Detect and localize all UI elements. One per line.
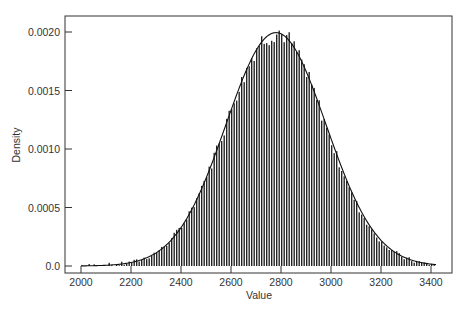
histogram-bar [334, 153, 335, 266]
histogram-bar [266, 43, 267, 266]
histogram-bar [434, 265, 435, 266]
histogram-bar [184, 223, 185, 266]
histogram-bar [244, 82, 245, 266]
histogram-bar [234, 103, 235, 266]
histogram-bar [256, 48, 257, 266]
histogram-bar [204, 181, 205, 266]
histogram-bar [236, 101, 237, 266]
histogram-bar [224, 135, 225, 266]
histogram-bar [314, 88, 315, 266]
histogram-bar [229, 111, 230, 266]
histogram-bar [149, 258, 150, 266]
histogram-bar [321, 121, 322, 266]
histogram-bar [364, 218, 365, 266]
histogram-bar [216, 146, 217, 266]
x-tick-label: 3000 [319, 276, 343, 288]
histogram-bar [261, 36, 262, 266]
histogram-bar [219, 144, 220, 266]
histogram-bar [241, 77, 242, 266]
histogram-bar [354, 200, 355, 266]
histogram-bar [211, 169, 212, 266]
histogram-bar [341, 171, 342, 266]
histogram-bar [379, 241, 380, 266]
histogram-bar [181, 228, 182, 266]
histogram-bar [429, 265, 430, 266]
histogram-bar [156, 252, 157, 266]
histogram-bar [141, 260, 142, 266]
histogram-bar [139, 262, 140, 266]
histogram-bar [376, 238, 377, 266]
histogram-bar [191, 208, 192, 266]
histogram-bar [411, 261, 412, 266]
histogram-bar [351, 192, 352, 266]
x-axis-label: Value [246, 289, 272, 301]
histogram-bar [286, 35, 287, 266]
histogram-bar [279, 31, 280, 266]
histogram-bar [251, 58, 252, 266]
histogram-bar [171, 238, 172, 266]
histogram-bar [331, 145, 332, 266]
x-tick-label: 2200 [119, 276, 143, 288]
histogram-bar [231, 109, 232, 266]
histogram-bar [199, 193, 200, 266]
y-tick-label: 0.0020 [28, 26, 60, 38]
histogram-bar [311, 85, 312, 266]
histogram-bar [146, 259, 147, 266]
histogram-bar [386, 247, 387, 266]
histogram-chart: 20002200240026002800300032003400 0.00.00… [0, 0, 463, 313]
histogram-bar [169, 243, 170, 266]
x-axis: 20002200240026002800300032003400 [69, 266, 443, 288]
y-tick-label: 0.0 [45, 260, 60, 272]
histogram-bar [186, 219, 187, 266]
histogram-bar [264, 44, 265, 266]
histogram-bar [119, 265, 120, 266]
histogram-bar [239, 92, 240, 266]
histogram-bar [196, 198, 197, 266]
histogram-bars [81, 31, 435, 266]
histogram-bar [306, 77, 307, 266]
histogram-bar [374, 233, 375, 266]
histogram-bar [254, 61, 255, 266]
histogram-bar [309, 72, 310, 266]
histogram-bar [361, 215, 362, 266]
histogram-bar [159, 250, 160, 266]
histogram-bar [201, 186, 202, 266]
histogram-bar [136, 259, 137, 266]
histogram-bar [346, 181, 347, 266]
histogram-bar [401, 257, 402, 266]
histogram-bar [269, 45, 270, 266]
histogram-bar [384, 246, 385, 266]
histogram-bar [226, 119, 227, 266]
histogram-bar [344, 176, 345, 266]
histogram-bar [316, 100, 317, 266]
histogram-bar [326, 128, 327, 266]
histogram-bar [176, 230, 177, 266]
histogram-bar [349, 187, 350, 266]
histogram-bar [131, 263, 132, 266]
x-tick-label: 2000 [69, 276, 93, 288]
histogram-bar [296, 52, 297, 266]
histogram-bar [126, 264, 127, 266]
x-tick-label: 2400 [169, 276, 193, 288]
histogram-bar [151, 256, 152, 266]
histogram-bar [289, 32, 290, 266]
histogram-bar [249, 66, 250, 266]
histogram-bar [299, 50, 300, 266]
histogram-bar [294, 41, 295, 266]
histogram-bar [304, 64, 305, 266]
histogram-bar [356, 201, 357, 266]
histogram-bar [164, 247, 165, 266]
histogram-bar [206, 177, 207, 266]
histogram-bar [414, 263, 415, 266]
histogram-bar [214, 153, 215, 266]
histogram-bar [281, 34, 282, 266]
histogram-bar [246, 68, 247, 266]
histogram-bar [381, 241, 382, 266]
histogram-bar [301, 60, 302, 266]
y-tick-label: 0.0010 [28, 143, 60, 155]
histogram-bar [389, 250, 390, 266]
y-tick-label: 0.0015 [28, 85, 60, 97]
histogram-bar [284, 42, 285, 266]
histogram-bar [391, 250, 392, 266]
histogram-bar [339, 167, 340, 266]
